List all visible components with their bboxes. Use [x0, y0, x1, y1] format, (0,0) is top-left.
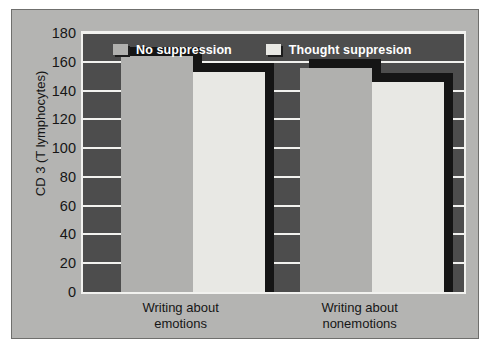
bar [300, 68, 372, 292]
y-axis-tick-label: 180 [36, 25, 76, 41]
x-axis-category-line: nonemotions [290, 316, 430, 332]
y-axis-tick-label: 80 [36, 169, 76, 185]
x-axis-category-line: emotions [111, 316, 251, 332]
legend-swatch-no-suppression [113, 44, 128, 55]
x-axis-category-label: Writing aboutnonemotions [290, 300, 430, 332]
legend-label-no-suppression: No suppression [136, 43, 232, 57]
bar [121, 56, 193, 292]
plot-frame: No suppression Thought suppresion [81, 31, 466, 294]
chart-legend: No suppression Thought suppresion [83, 33, 464, 66]
bar [193, 72, 265, 292]
chart-figure: CD 3 (T lymphocytes) 0204060801001201401… [0, 0, 490, 348]
legend-swatch-thought-suppression [266, 44, 281, 55]
legend-label-thought-suppression: Thought suppresion [289, 43, 412, 57]
y-axis-tick-label: 140 [36, 83, 76, 99]
y-axis-tick-label: 160 [36, 54, 76, 70]
y-axis-tick-label: 120 [36, 111, 76, 127]
x-axis-category-line: Writing about [290, 300, 430, 316]
y-axis-tick-label: 0 [36, 284, 76, 300]
legend-entry-thought-suppression: Thought suppresion [266, 43, 412, 57]
y-axis-tick-label: 100 [36, 140, 76, 156]
plot-area: No suppression Thought suppresion [83, 33, 464, 292]
y-axis-tick-label: 20 [36, 255, 76, 271]
chart-card: CD 3 (T lymphocytes) 0204060801001201401… [11, 9, 479, 339]
legend-entry-no-suppression: No suppression [113, 43, 232, 57]
x-axis-category-label: Writing aboutemotions [111, 300, 251, 332]
x-axis-category-line: Writing about [111, 300, 251, 316]
y-axis-tick-label: 40 [36, 226, 76, 242]
bar [372, 82, 444, 292]
y-axis-tick-label: 60 [36, 198, 76, 214]
y-axis-tick-labels: 020406080100120140160180 [32, 31, 76, 294]
